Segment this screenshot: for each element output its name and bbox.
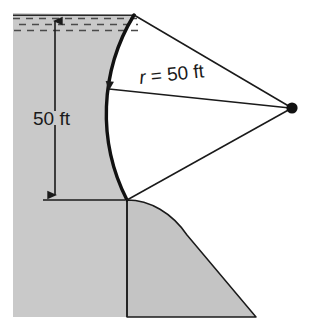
radius-label: r = 50 ft	[138, 60, 206, 88]
depth-label: 50 ft	[33, 108, 71, 129]
diagram-canvas: 50 ft r = 50 ft	[0, 0, 319, 329]
radius-line-lower	[127, 108, 292, 200]
engineering-diagram: 50 ft r = 50 ft	[0, 0, 319, 329]
arc-center-point	[286, 102, 297, 113]
radius-dimension-arrow	[109, 89, 290, 108]
soil-mass-lower	[127, 200, 256, 317]
radius-equation: = 50 ft	[145, 60, 206, 87]
